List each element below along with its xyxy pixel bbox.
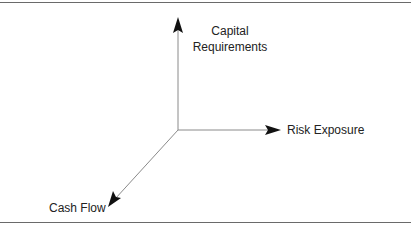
risk-exposure-label: Risk Exposure (287, 122, 364, 138)
bottom-rule (0, 222, 411, 223)
arrow-down-left-icon (108, 191, 121, 207)
cash-flow-label: Cash Flow (49, 200, 106, 216)
capital-requirements-label: Capital Requirements (190, 23, 270, 55)
capital-requirements-line-2: Requirements (190, 39, 270, 55)
diagonal-axis-line (115, 130, 178, 199)
capital-requirements-line-1: Capital (190, 23, 270, 39)
